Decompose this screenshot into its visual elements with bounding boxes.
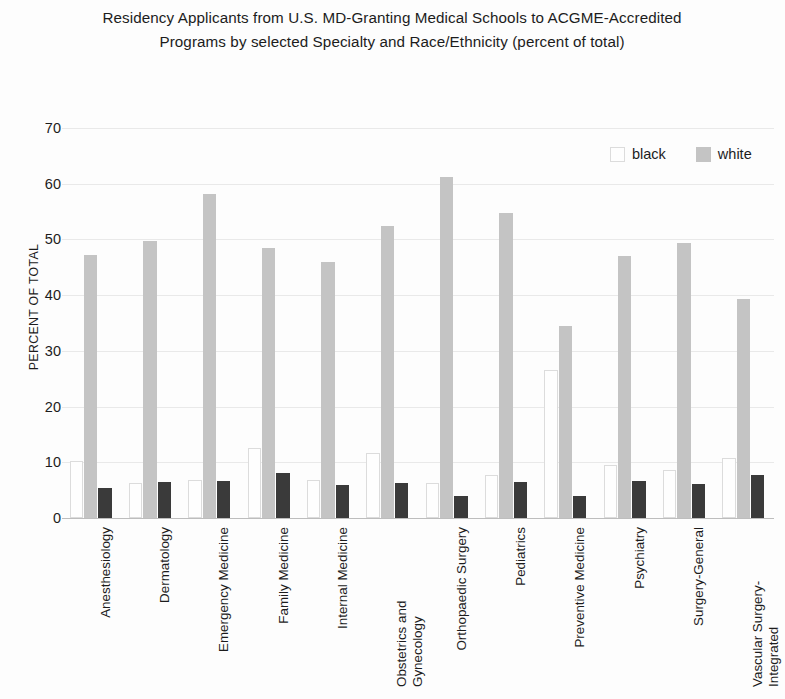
- y-axis-tick-label: 40: [17, 287, 61, 303]
- x-axis-label: Dermatology: [157, 527, 173, 603]
- bar-third[interactable]: [276, 473, 289, 518]
- bar-third[interactable]: [158, 482, 171, 518]
- bar-black[interactable]: [426, 483, 439, 518]
- bar-white[interactable]: [618, 256, 631, 518]
- bar-black[interactable]: [366, 453, 379, 518]
- y-axis-tick-label: 70: [17, 120, 61, 136]
- bar-group: [596, 128, 655, 518]
- bar-white[interactable]: [321, 262, 334, 518]
- x-axis-label: Anesthesiology: [98, 527, 114, 618]
- bar-group: [181, 128, 240, 518]
- x-axis-label: Internal Medicine: [335, 527, 351, 629]
- bar-group: [240, 128, 299, 518]
- x-axis-label-line1: Vascular Surgery-: [750, 581, 765, 687]
- bar-black[interactable]: [485, 475, 498, 518]
- x-axis-label: Vascular Surgery-Integrated: [750, 527, 783, 687]
- bar-third[interactable]: [692, 484, 705, 518]
- bar-group: [62, 128, 121, 518]
- x-axis-label: Psychiatry: [632, 527, 648, 589]
- bar-white[interactable]: [737, 299, 750, 519]
- y-axis-tick-label: 20: [17, 399, 61, 415]
- bar-white[interactable]: [440, 177, 453, 518]
- x-axis-label-line1: Internal Medicine: [335, 527, 350, 629]
- chart-page: Residency Applicants from U.S. MD-Granti…: [0, 0, 785, 699]
- bar-black[interactable]: [663, 470, 676, 518]
- bar-third[interactable]: [336, 485, 349, 518]
- bar-third[interactable]: [217, 481, 230, 518]
- x-axis-label: Surgery-General: [691, 527, 707, 626]
- bar-black[interactable]: [604, 465, 617, 518]
- bar-group: [299, 128, 358, 518]
- bar-third[interactable]: [514, 482, 527, 518]
- bar-third[interactable]: [454, 496, 467, 518]
- chart-title: Residency Applicants from U.S. MD-Granti…: [92, 6, 692, 53]
- bar-third[interactable]: [395, 483, 408, 518]
- bar-group: [715, 128, 774, 518]
- bar-third[interactable]: [632, 481, 645, 518]
- bar-white[interactable]: [677, 243, 690, 518]
- bar-white[interactable]: [381, 226, 394, 519]
- x-axis-label: Preventive Medicine: [572, 527, 588, 648]
- x-axis-label-line1: Emergency Medicine: [216, 527, 231, 652]
- x-axis-label: Emergency Medicine: [216, 527, 232, 652]
- x-axis-label: Family Medicine: [276, 527, 292, 624]
- bar-third[interactable]: [98, 488, 111, 518]
- x-axis-label-line1: Surgery-General: [691, 527, 706, 626]
- bar-black[interactable]: [722, 458, 735, 518]
- x-axis-label: Orthopaedic Surgery: [454, 527, 470, 651]
- x-axis-label-line1: Pediatrics: [513, 527, 528, 586]
- x-axis-label-line1: Orthopaedic Surgery: [454, 527, 469, 651]
- plot-area: 010203040506070: [62, 128, 774, 518]
- bar-group: [655, 128, 714, 518]
- x-axis-label-line1: Preventive Medicine: [572, 527, 587, 648]
- bar-group: [537, 128, 596, 518]
- x-axis-label: Obstetrics andGynecology: [394, 527, 427, 687]
- bar-black[interactable]: [70, 461, 83, 518]
- x-axis-label-line1: Dermatology: [157, 527, 172, 603]
- bar-white[interactable]: [262, 248, 275, 518]
- y-axis-tick-label: 10: [17, 454, 61, 470]
- bar-black[interactable]: [248, 448, 261, 518]
- bar-black[interactable]: [188, 480, 201, 518]
- x-axis-label: Pediatrics: [513, 527, 529, 586]
- y-axis-tick-label: 0: [17, 510, 61, 526]
- bar-white[interactable]: [203, 194, 216, 518]
- bar-black[interactable]: [307, 480, 320, 518]
- y-axis-title: PERCENT OF TOTAL: [27, 232, 41, 382]
- bar-third[interactable]: [751, 475, 764, 518]
- x-axis-label-line1: Family Medicine: [276, 527, 291, 624]
- bar-white[interactable]: [84, 255, 97, 518]
- y-axis-tick-label: 50: [17, 231, 61, 247]
- bar-black[interactable]: [129, 483, 142, 518]
- bar-group: [359, 128, 418, 518]
- bar-white[interactable]: [499, 213, 512, 518]
- x-axis-label-line1: Psychiatry: [632, 527, 647, 589]
- y-axis-tick-label: 60: [17, 176, 61, 192]
- bar-group: [121, 128, 180, 518]
- bar-black[interactable]: [544, 370, 557, 518]
- y-axis-tick-label: 30: [17, 343, 61, 359]
- x-axis-label-line1: Obstetrics and: [394, 601, 409, 687]
- bar-white[interactable]: [559, 326, 572, 518]
- bar-white[interactable]: [143, 241, 156, 518]
- bar-group: [418, 128, 477, 518]
- bar-third[interactable]: [573, 496, 586, 518]
- x-axis-label-line2: Gynecology: [411, 527, 427, 687]
- x-axis-label-line2: Integrated: [767, 527, 783, 687]
- x-axis-labels: AnesthesiologyDermatologyEmergency Medic…: [62, 519, 774, 699]
- bar-group: [477, 128, 536, 518]
- x-axis-label-line1: Anesthesiology: [98, 527, 113, 618]
